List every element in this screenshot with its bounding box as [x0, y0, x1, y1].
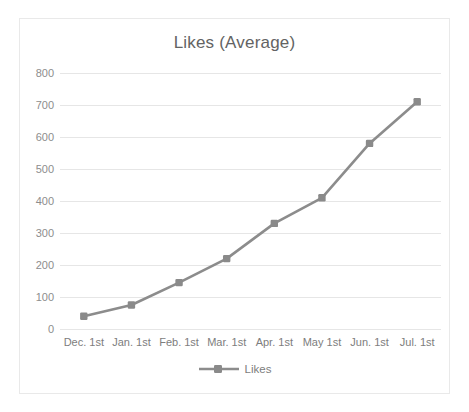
series-line-likes: [84, 102, 417, 316]
data-point-marker: [413, 98, 420, 105]
chart-container: Likes (Average) 010020030040050060070080…: [19, 18, 450, 394]
data-point-marker: [175, 279, 182, 286]
x-axis-tick-label: Dec. 1st: [64, 336, 104, 348]
gridline: [60, 329, 441, 330]
x-axis-tick-label: Mar. 1st: [207, 336, 246, 348]
plot-area: 0100200300400500600700800 Dec. 1stJan. 1…: [60, 73, 441, 329]
x-axis-tick-label: Jun. 1st: [350, 336, 389, 348]
data-point-marker: [223, 255, 230, 262]
x-axis-tick-label: Jan. 1st: [112, 336, 151, 348]
x-axis-tick-label: May 1st: [303, 336, 342, 348]
y-axis-tick-label: 100: [36, 291, 54, 303]
y-axis-tick-label: 300: [36, 227, 54, 239]
x-axis-tick-label: Apr. 1st: [256, 336, 293, 348]
y-axis-tick-label: 500: [36, 163, 54, 175]
y-axis-tick-label: 400: [36, 195, 54, 207]
y-axis-tick-label: 600: [36, 131, 54, 143]
legend-marker-likes-icon: [198, 363, 240, 375]
y-axis-tick-label: 200: [36, 259, 54, 271]
data-point-marker: [366, 140, 373, 147]
series-likes: [60, 73, 441, 329]
y-axis-tick-label: 700: [36, 99, 54, 111]
data-point-marker: [318, 194, 325, 201]
y-axis-tick-label: 800: [36, 67, 54, 79]
data-point-marker: [271, 220, 278, 227]
x-axis-tick-label: Jul. 1st: [400, 336, 435, 348]
data-point-marker: [80, 313, 87, 320]
legend-label-likes: Likes: [245, 363, 272, 375]
data-point-marker: [128, 301, 135, 308]
chart-title: Likes (Average): [20, 33, 449, 53]
chart-legend: Likes: [20, 363, 449, 375]
y-axis-tick-label: 0: [48, 323, 54, 335]
x-axis-tick-label: Feb. 1st: [159, 336, 199, 348]
